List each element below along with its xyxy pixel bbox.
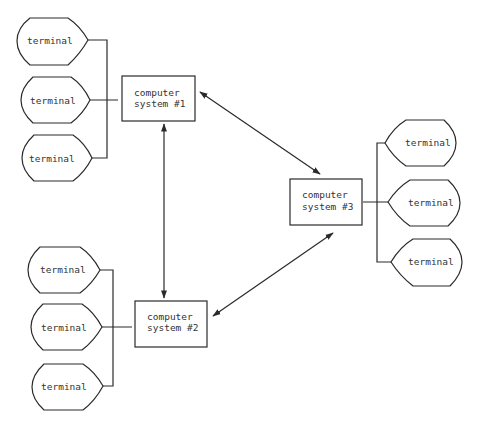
terminal-label: terminal — [40, 264, 86, 275]
computer-system-1: computer system #1 — [122, 76, 195, 121]
terminal-label: terminal — [27, 35, 73, 46]
system-label-line1: computer — [134, 87, 180, 98]
terminal-group-system-2: terminal terminal terminal — [28, 247, 132, 410]
link-arrow-2-3 — [213, 233, 333, 316]
terminal-1-2: terminal — [21, 77, 90, 123]
terminal-label: terminal — [408, 256, 454, 267]
terminal-label: terminal — [41, 322, 87, 333]
terminal-2-1: terminal — [28, 247, 100, 293]
bus-line — [363, 143, 391, 262]
terminal-label: terminal — [29, 153, 75, 164]
system-label-line1: computer — [302, 189, 348, 200]
terminal-3-1: terminal — [385, 120, 456, 166]
terminal-2-3: terminal — [32, 364, 103, 410]
distributed-network-diagram: terminal terminal terminal computer syst… — [0, 0, 482, 432]
link-arrow-1-3 — [200, 92, 320, 174]
terminal-1-1: terminal — [17, 18, 88, 65]
computer-system-2: computer system #2 — [135, 301, 207, 347]
terminal-label: terminal — [30, 95, 76, 106]
system-label-line2: system #1 — [134, 98, 186, 109]
computer-system-3: computer system #3 — [290, 179, 362, 225]
terminal-group-system-3: terminal terminal terminal — [363, 120, 462, 286]
system-label-line1: computer — [147, 311, 193, 322]
terminal-3-2: terminal — [388, 180, 460, 226]
terminal-label: terminal — [41, 381, 87, 392]
system-label-line2: system #3 — [302, 201, 353, 212]
terminal-group-system-1: terminal terminal terminal — [17, 18, 118, 181]
bus-line — [100, 270, 132, 386]
terminal-1-3: terminal — [22, 135, 92, 181]
terminal-label: terminal — [408, 197, 454, 208]
system-label-line2: system #2 — [147, 322, 198, 333]
terminal-3-3: terminal — [391, 239, 462, 286]
terminal-2-2: terminal — [31, 304, 102, 350]
terminal-label: terminal — [405, 137, 451, 148]
bus-line — [88, 40, 118, 158]
